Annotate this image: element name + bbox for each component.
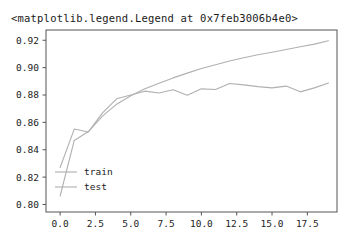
- x-tick-label: 10.0: [190, 218, 213, 229]
- x-tick-label: 17.5: [296, 218, 319, 229]
- y-tick-label: 0.92: [16, 35, 39, 46]
- x-axis-ticks: 0.02.55.07.510.012.515.017.5: [52, 212, 319, 229]
- x-tick-label: 5.0: [122, 218, 139, 229]
- x-tick-label: 2.5: [87, 218, 104, 229]
- legend-label-test: test: [84, 181, 107, 192]
- y-tick-label: 0.86: [16, 117, 39, 128]
- x-tick-label: 12.5: [225, 218, 248, 229]
- series-line-test: [60, 83, 328, 168]
- x-tick-label: 15.0: [261, 218, 284, 229]
- repr-output-text: <matplotlib.legend.Legend at 0x7feb3006b…: [11, 12, 298, 24]
- y-tick-label: 0.88: [16, 89, 39, 100]
- matplotlib-figure: 0.02.55.07.510.012.515.017.5 0.800.820.8…: [0, 28, 350, 245]
- y-tick-label: 0.80: [16, 199, 39, 210]
- x-tick-label: 0.0: [52, 218, 69, 229]
- legend-label-train: train: [84, 166, 113, 177]
- chart-legend: traintest: [55, 166, 113, 192]
- x-tick-label: 7.5: [157, 218, 174, 229]
- y-tick-label: 0.84: [16, 144, 39, 155]
- y-tick-label: 0.82: [16, 172, 39, 183]
- line-chart: 0.02.55.07.510.012.515.017.5 0.800.820.8…: [0, 28, 350, 245]
- y-axis-ticks: 0.800.820.840.860.880.900.92: [16, 35, 46, 210]
- y-tick-label: 0.90: [16, 62, 39, 73]
